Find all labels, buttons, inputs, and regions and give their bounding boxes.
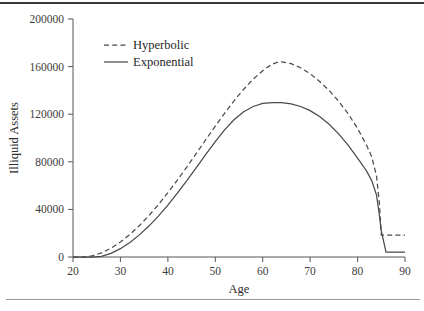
x-tick-label: 60: [257, 265, 269, 277]
figure-container: 200000 160000 120000 80000 40000 0 20 30…: [0, 0, 424, 311]
y-tick-label: 40000: [35, 203, 64, 215]
chart-legend: Hyperbolic Exponential: [104, 38, 194, 69]
y-tick-label: 80000: [35, 156, 64, 168]
legend-label-exponential: Exponential: [133, 55, 194, 69]
x-axis-tick-labels: 20 30 40 50 60 70 80 90: [67, 265, 411, 277]
series-line-hyperbolic: [73, 62, 405, 257]
y-tick-label: 200000: [30, 13, 65, 25]
y-tick-label: 0: [58, 251, 64, 263]
y-tick-label: 120000: [30, 108, 65, 120]
legend-label-hyperbolic: Hyperbolic: [133, 38, 190, 52]
y-tick-label: 160000: [30, 61, 65, 73]
x-tick-label: 20: [67, 265, 79, 277]
x-axis-ticks: [73, 257, 405, 262]
x-tick-label: 70: [304, 265, 316, 277]
x-axis-title: Age: [229, 282, 250, 296]
x-tick-label: 80: [352, 265, 364, 277]
x-tick-label: 50: [210, 265, 222, 277]
x-tick-label: 90: [399, 265, 411, 277]
line-chart: 200000 160000 120000 80000 40000 0 20 30…: [0, 0, 424, 311]
x-tick-label: 40: [162, 265, 174, 277]
bottom-divider-rule: [6, 299, 420, 300]
y-axis-title: Illiquid Assets: [7, 102, 21, 174]
x-tick-label: 30: [115, 265, 127, 277]
series-group: [73, 62, 405, 257]
y-axis-tick-labels: 200000 160000 120000 80000 40000 0: [30, 13, 65, 263]
y-axis-ticks: [68, 19, 73, 257]
